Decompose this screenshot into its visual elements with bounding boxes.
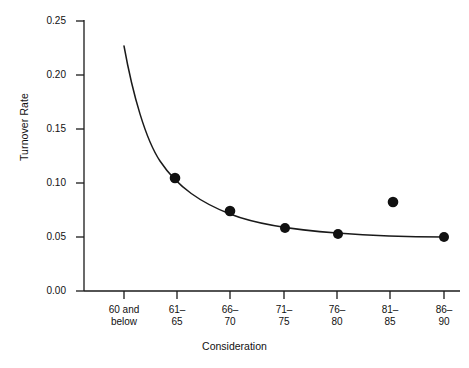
x-tick-label-line1: 60 and: [94, 304, 154, 316]
data-point: [439, 232, 449, 242]
x-tick-label-line2: 70: [200, 316, 260, 328]
x-tick-label-line1: 71–: [254, 304, 314, 316]
x-tick-label-66-70: 66– 70: [200, 304, 260, 327]
x-tick-label-line1: 76–: [307, 304, 367, 316]
x-tick-label-line2: 65: [147, 316, 207, 328]
x-tick-label-line2: 75: [254, 316, 314, 328]
x-tick-label-86-90: 86– 90: [414, 304, 469, 327]
y-tick-label: 0.20: [32, 69, 66, 80]
x-tick-label-line2: 85: [360, 316, 420, 328]
x-tick-label-71-75: 71– 75: [254, 304, 314, 327]
x-axis-ticks: [124, 291, 444, 299]
data-point: [388, 197, 399, 208]
x-tick-label-76-80: 76– 80: [307, 304, 367, 327]
data-point: [225, 206, 236, 217]
x-tick-label-81-85: 81– 85: [360, 304, 420, 327]
y-tick-label: 0.25: [32, 15, 66, 26]
y-tick-label: 0.00: [32, 285, 66, 296]
x-tick-label-line1: 61–: [147, 304, 207, 316]
y-axis-ticks: [76, 21, 84, 291]
data-point-markers: [170, 173, 449, 242]
y-tick-label: 0.15: [32, 123, 66, 134]
x-tick-label-line2: below: [94, 316, 154, 328]
x-tick-label-line1: 81–: [360, 304, 420, 316]
data-point: [280, 223, 290, 233]
data-point: [170, 173, 181, 184]
fitted-curve: [124, 46, 444, 237]
data-point: [333, 229, 343, 239]
y-tick-label: 0.10: [32, 177, 66, 188]
x-tick-label-61-65: 61– 65: [147, 304, 207, 327]
x-tick-label-line1: 66–: [200, 304, 260, 316]
y-axis-title: Turnover Rate: [18, 62, 30, 192]
y-tick-label: 0.05: [32, 231, 66, 242]
x-axis-title: Consideration: [0, 340, 469, 352]
figure-container: 0.25 0.20 0.15 0.10 0.05 0.00 60 and bel…: [0, 0, 469, 368]
x-tick-label-line1: 86–: [414, 304, 469, 316]
x-tick-label-line2: 80: [307, 316, 367, 328]
x-tick-label-60-and-below: 60 and below: [94, 304, 154, 327]
x-tick-label-line2: 90: [414, 316, 469, 328]
